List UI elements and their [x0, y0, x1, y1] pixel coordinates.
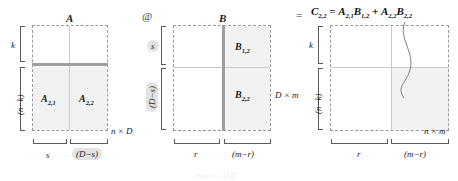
- matrix-a-row-brace-k: [20, 26, 25, 62]
- matrix-b-block-22-sub: 2,2: [242, 95, 250, 102]
- matrix-b-block-12-sub: 1,2: [242, 47, 250, 54]
- matrix-b-row-dim-s: s: [147, 40, 159, 52]
- matrix-a-col-dim-ds: (D−s): [72, 148, 102, 160]
- matrix-b-col-dim-mr: (m−r): [232, 149, 254, 159]
- matrix-b-column-highlight-bar: [222, 25, 225, 131]
- figure-canvas: A A2,1 A2,2 k (n−k) s (D−s) n × D @: [0, 0, 458, 181]
- formula-term1-a: A: [338, 5, 345, 17]
- matrix-a-block-label-22: A2,2: [79, 93, 94, 106]
- matrix-b-col-brace-r: [174, 139, 220, 144]
- matrix-b-size-label: D × m: [275, 90, 299, 100]
- matrix-b-row-brace-s: [161, 26, 166, 65]
- matrix-a-column-separator: [69, 26, 70, 130]
- matrix-c-size-label: n × m: [424, 126, 446, 136]
- operator-matmul-at: @: [142, 10, 152, 22]
- matrix-c-col-brace-r: [331, 139, 388, 144]
- matrix-c-frame: [330, 25, 449, 131]
- matrix-a-col-brace-ds: [70, 139, 108, 144]
- matrix-a-col-brace-s: [33, 139, 67, 144]
- matrix-b-name: B: [219, 12, 227, 24]
- matrix-a-block-22-sub: 2,2: [86, 99, 94, 106]
- operator-equals: =: [296, 9, 302, 21]
- formula-term1-b-sub: 1,2: [361, 12, 369, 19]
- matrix-a-row-dim-k: k: [11, 40, 15, 50]
- matrix-b-block-22-name: B: [235, 89, 242, 100]
- matrix-b-block-label-22: B2,2: [235, 89, 250, 102]
- formula-term1-a-sub: 2,1: [346, 12, 354, 19]
- result-formula: C2,2 = A2,1B1,2 + A2,2B2,2: [311, 5, 412, 19]
- matrix-b-row-dim-ds: (D−s): [146, 82, 158, 112]
- matrix-c-row-separator: [331, 67, 448, 68]
- matrix-a-col-dim-s: s: [46, 150, 50, 160]
- matrix-b-block-label-12: B1,2: [235, 41, 250, 54]
- formula-term1-b: B: [354, 5, 361, 17]
- matrix-c-col-dim-mr: (m−r): [404, 149, 426, 159]
- matrix-a-block-21-sub: 2,1: [48, 99, 56, 106]
- matrix-a-block-label-21: A2,1: [41, 93, 56, 106]
- matrix-b-row-brace-ds: [161, 68, 166, 130]
- formula-term2-b: B: [396, 5, 403, 17]
- figure-caption: Figure 1: 计算: [196, 170, 237, 180]
- matrix-c-column-separator: [391, 26, 392, 130]
- matrix-a-frame: [32, 25, 108, 131]
- matrix-c-row-brace-k: [318, 26, 323, 64]
- matrix-c-col-dim-r: r: [357, 149, 361, 159]
- matrix-a-row-dim-nk: (n−k): [15, 94, 25, 115]
- matrix-a-size-label: n × D: [111, 126, 133, 136]
- matrix-a-name: A: [66, 12, 74, 24]
- matrix-a-block-22-name: A: [79, 93, 86, 104]
- matrix-b-col-brace-mr: [224, 139, 271, 144]
- matrix-b-col-dim-r: r: [194, 149, 198, 159]
- formula-term2-b-sub: 2,2: [404, 12, 412, 19]
- matrix-c-row-dim-k: k: [309, 40, 313, 50]
- matrix-a-block-21-name: A: [41, 93, 48, 104]
- matrix-a-row-highlight-bar: [32, 63, 108, 66]
- matrix-c-row-dim-nk: (n−k): [313, 93, 323, 114]
- matrix-b-block-12-name: B: [235, 41, 242, 52]
- matrix-c-col-brace-mr: [391, 139, 449, 144]
